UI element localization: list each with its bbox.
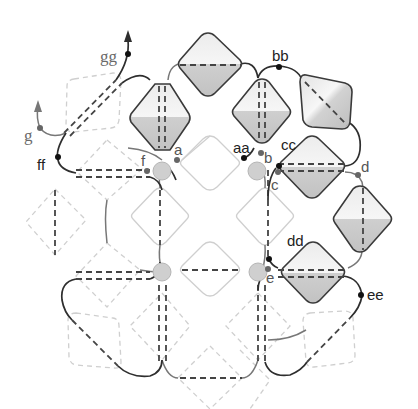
label-ee: ee	[367, 286, 384, 303]
new-bead-top-right-vertical	[233, 79, 291, 143]
new-bead-top-center	[179, 33, 243, 96]
label-f: f	[141, 152, 146, 169]
existing-bead-top-center	[181, 136, 240, 190]
point-g	[37, 125, 43, 131]
point-bb	[276, 64, 282, 70]
label-gg: gg	[100, 47, 118, 66]
point-dd	[266, 256, 272, 262]
ghost-bead-bottom-left	[68, 313, 121, 368]
point-ee	[358, 292, 364, 298]
beadwork-diagram: gg g ff f a aa b cc c bb d dd e ee	[0, 0, 418, 409]
point-gg	[125, 51, 131, 57]
ghost-bead-far-left	[26, 189, 86, 255]
label-aa: aa	[233, 139, 250, 156]
point-c	[275, 169, 281, 175]
label-e: e	[266, 269, 274, 286]
label-bb: bb	[272, 47, 289, 64]
point-cc	[276, 163, 282, 169]
existing-bead-bottom-center	[181, 242, 240, 296]
label-cc: cc	[281, 136, 297, 153]
round-bead-bottom-right	[249, 263, 267, 281]
label-ff: ff	[37, 156, 46, 173]
arrow-up-icon-g	[34, 100, 42, 112]
new-bead-right-mid	[334, 186, 392, 252]
label-d: d	[361, 158, 369, 175]
existing-bead-left-center	[132, 188, 189, 245]
new-bead-upper-right-tilted	[300, 75, 352, 129]
label-dd: dd	[287, 232, 304, 249]
existing-bead-right-center	[237, 188, 294, 245]
round-bead-top-left	[153, 162, 171, 180]
label-b: b	[264, 149, 272, 166]
new-bead-dd	[278, 242, 346, 303]
label-a: a	[174, 141, 183, 158]
label-g: g	[24, 126, 33, 145]
ghost-bead-lower-center-left	[130, 293, 190, 360]
arrow-up-icon-gg	[124, 30, 132, 42]
point-ff	[55, 154, 61, 160]
label-c: c	[271, 176, 279, 193]
round-bead-bottom-left	[153, 263, 171, 281]
ghost-bead-left-lower	[76, 243, 140, 307]
